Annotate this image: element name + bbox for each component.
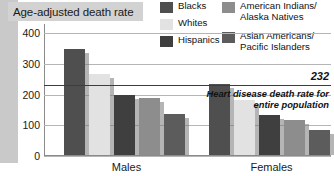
bar (114, 95, 135, 155)
bar (259, 115, 280, 155)
bar-group-males: Males (64, 24, 189, 155)
bar (139, 98, 160, 155)
reference-note-label: Heart disease death rate for entire popu… (199, 89, 329, 112)
x-axis-label-females: Females (209, 161, 334, 173)
y-axis (44, 24, 45, 156)
y-tick-label: 200 (22, 89, 40, 101)
legend-label-blacks: Blacks (178, 1, 206, 12)
legend-item-blacks: Blacks (160, 1, 226, 13)
plot-area: 0100200300400 MalesFemales 232 Heart dis… (44, 24, 331, 156)
bar (64, 49, 85, 155)
reference-value-label: 232 (311, 70, 329, 82)
legend-swatch-american-indians (222, 2, 235, 13)
y-tick-label: 300 (22, 58, 40, 70)
bar (89, 74, 110, 155)
reference-line (44, 85, 331, 86)
legend-item-american-indians: American Indians/ Alaska Natives (222, 1, 331, 22)
left-spine (0, 0, 18, 163)
y-tick-label: 400 (22, 27, 40, 39)
y-tick-label: 100 (22, 119, 40, 131)
bar-shadow (185, 118, 189, 155)
chart-title-banner: Age-adjusted death rate (8, 2, 143, 21)
gridline (44, 156, 331, 157)
bar (164, 114, 185, 155)
legend-label-american-indians: American Indians/ Alaska Natives (240, 1, 317, 22)
bar-shadow (330, 134, 334, 155)
x-axis-label-males: Males (64, 161, 189, 173)
y-tick-label: 0 (34, 150, 40, 162)
bar (309, 130, 330, 155)
bar (284, 120, 305, 155)
legend-swatch-blacks (160, 2, 173, 13)
chart-title: Age-adjusted death rate (13, 6, 133, 18)
